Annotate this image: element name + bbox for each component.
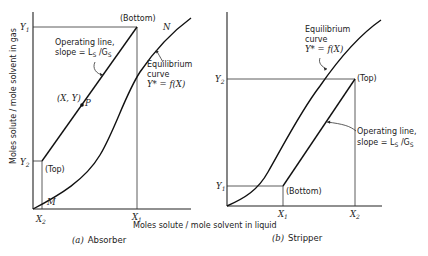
stripper-top-label: (Top) [357, 74, 377, 83]
stripper-operating-line-label-1: Operating line, [357, 127, 417, 136]
absorber-bottom-label: (Bottom) [120, 14, 156, 23]
stripper-caption: (b)Stripper [272, 233, 323, 243]
absorber-x2-label: X2 [35, 214, 46, 225]
absorber-point-m-label: M [46, 197, 56, 207]
stripper-x2-label: X2 [349, 209, 360, 220]
stripper-operating-leader [327, 122, 356, 131]
absorber-y2-label: Y2 [20, 157, 30, 168]
absorber-point-n-label: N [162, 22, 171, 32]
absorber-operating-leader [94, 62, 103, 75]
absorber-equilibrium-label-3: Y* = f(X) [147, 79, 185, 89]
stripper-panel: Y2 Y1 X1 X2 (Top) (Bottom) Equilibrium c… [215, 12, 417, 243]
y-axis-label: Moles solute / mole solvent in gas [9, 28, 18, 164]
absorber-y1-label: Y1 [20, 22, 29, 33]
stripper-operating-line-label-2: slope = LS /GS [357, 138, 414, 148]
stripper-equilibrium-label-3: Y* = f(X) [305, 44, 343, 54]
stripper-equilibrium-curve [227, 20, 381, 206]
absorber-point-p [80, 103, 84, 107]
stripper-x1-label: X1 [277, 209, 288, 220]
absorber-point-p-label: P [84, 98, 91, 108]
absorber-operating-line-label-2: slope = LS /GS [55, 48, 112, 58]
stripper-equilibrium-label-1: Equilibrium [305, 25, 351, 34]
stripper-equilibrium-label-2: curve [305, 35, 327, 44]
stripper-equilibrium-leader [319, 58, 327, 69]
stripper-y1-label: Y1 [216, 181, 225, 192]
stripper-y2-label: Y2 [215, 74, 225, 85]
absorber-caption: (a)Absorber [72, 235, 127, 245]
stripper-operating-line [283, 79, 355, 186]
absorber-point-xy-label: (X, Y) [57, 93, 81, 103]
absorber-panel: Y1 Y2 X2 X1 (Bottom) (Top) N M P (X, Y) … [20, 12, 193, 245]
absorber-operating-line-label-1: Operating line, [55, 38, 115, 47]
stripper-bottom-label: (Bottom) [286, 187, 322, 196]
absorber-equilibrium-label-2: curve [147, 70, 169, 79]
absorber-stripper-diagram: Y1 Y2 X2 X1 (Bottom) (Top) N M P (X, Y) … [0, 0, 428, 256]
x-axis-label: Moles solute / mole solvent in liquid [133, 221, 277, 230]
absorber-equilibrium-label-1: Equilibrium [147, 60, 193, 69]
absorber-top-label: (Top) [45, 165, 65, 174]
